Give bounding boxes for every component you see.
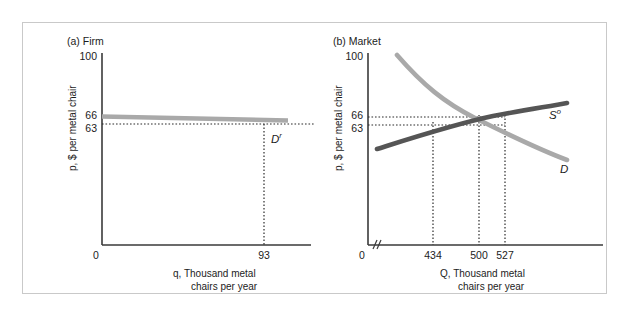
panel-firm-plot	[23, 23, 315, 295]
figure-root: (a) Firm p, $ per metal chair 100 66 63 …	[0, 0, 630, 320]
panel-market-plot	[315, 23, 608, 295]
panel-firm-demand-curve	[102, 117, 288, 121]
panel-market-supply-curve	[377, 103, 567, 149]
panel-market: (b) Market p, $ per metal chair 100 66 6…	[315, 23, 608, 295]
panel-firm: (a) Firm p, $ per metal chair 100 66 63 …	[23, 23, 315, 295]
figure-frame: (a) Firm p, $ per metal chair 100 66 63 …	[22, 22, 607, 294]
